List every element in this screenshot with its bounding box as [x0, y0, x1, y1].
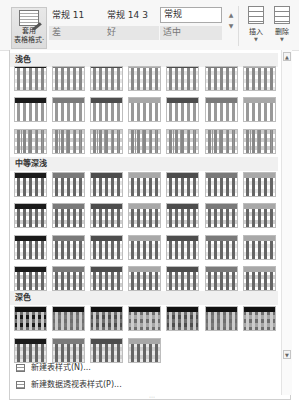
table-style-thumbnail[interactable] — [205, 266, 238, 291]
table-style-thumbnail[interactable] — [52, 66, 85, 91]
table-style-thumbnail[interactable] — [243, 97, 276, 122]
table-style-thumbnail[interactable] — [90, 172, 123, 197]
table-style-thumbnail[interactable] — [243, 203, 276, 228]
new-table-style-icon — [16, 364, 25, 372]
group-header-medium: 中等深浅 — [10, 157, 278, 171]
insert-button[interactable]: 插入 ▼ — [244, 6, 268, 48]
insert-label: 插入 — [244, 26, 268, 36]
table-style-thumbnail[interactable] — [90, 97, 123, 122]
delete-button[interactable]: 删除 ▼ — [270, 6, 294, 48]
table-style-thumbnail[interactable] — [166, 306, 199, 331]
table-style-thumbnail[interactable] — [52, 235, 85, 260]
new-pivot-style-label: 新建数据透视表样式(P)... — [31, 377, 122, 393]
table-style-thumbnail[interactable] — [128, 203, 161, 228]
table-style-thumbnail[interactable] — [166, 172, 199, 197]
delete-dropdown-icon: ▼ — [270, 36, 294, 42]
table-style-thumbnail[interactable] — [243, 129, 276, 154]
table-style-thumbnail[interactable] — [52, 172, 85, 197]
table-style-thumbnail[interactable] — [243, 235, 276, 260]
table-style-thumbnail[interactable] — [243, 306, 276, 331]
group-header-dark: 深色 — [10, 291, 278, 305]
group-header-light: 浅色 — [10, 53, 278, 67]
table-style-thumbnail[interactable] — [128, 66, 161, 91]
ribbon: 套用 表格格式· 常规 11 常规 14 3 常规 差 好 适中 ▲ ▼ 插入 … — [0, 0, 299, 51]
table-style-thumbnail[interactable] — [52, 129, 85, 154]
cell-style-good[interactable]: 好 — [104, 26, 159, 40]
table-style-thumbnail[interactable] — [128, 129, 161, 154]
table-style-thumbnail[interactable] — [166, 129, 199, 154]
table-style-thumbnail[interactable] — [205, 66, 238, 91]
table-style-thumbnail[interactable] — [14, 306, 47, 331]
table-style-thumbnail[interactable] — [14, 97, 47, 122]
table-style-thumbnail[interactable] — [14, 129, 47, 154]
table-style-thumbnail[interactable] — [205, 129, 238, 154]
delete-cells-icon — [274, 6, 290, 24]
cell-style-normal-14-3[interactable]: 常规 14 3 — [104, 9, 159, 23]
table-style-thumbnail[interactable] — [205, 172, 238, 197]
format-as-table-button[interactable]: 套用 表格格式· — [11, 7, 47, 49]
scroll-down-button[interactable]: ▼ — [283, 350, 291, 359]
table-style-thumbnail[interactable] — [128, 306, 161, 331]
new-table-style-label: 新建表样式(N)... — [31, 360, 91, 376]
table-style-thumbnail[interactable] — [52, 97, 85, 122]
table-style-thumbnail[interactable] — [14, 266, 47, 291]
more-styles-icon[interactable]: ▼ — [227, 20, 235, 31]
insert-cells-icon — [248, 6, 264, 24]
new-table-style-menu-item[interactable]: 新建表样式(N)... — [12, 360, 277, 376]
table-style-thumbnail[interactable] — [166, 266, 199, 291]
table-style-thumbnail[interactable] — [14, 203, 47, 228]
table-style-thumbnail[interactable] — [14, 66, 47, 91]
format-table-icon — [19, 10, 39, 26]
table-style-thumbnail[interactable] — [128, 235, 161, 260]
table-style-thumbnail[interactable] — [243, 66, 276, 91]
new-pivot-style-menu-item[interactable]: 新建数据透视表样式(P)... — [12, 377, 277, 393]
gallery-scrollbar[interactable]: ▲ ▼ — [281, 50, 292, 395]
table-style-thumbnail[interactable] — [128, 266, 161, 291]
table-style-thumbnail[interactable] — [90, 203, 123, 228]
cell-styles-scroll[interactable]: ▲ ▼ — [227, 9, 235, 45]
table-style-thumbnail[interactable] — [52, 306, 85, 331]
table-style-thumbnail[interactable] — [243, 266, 276, 291]
cell-style-bad[interactable]: 差 — [49, 26, 104, 40]
table-style-thumbnail[interactable] — [166, 203, 199, 228]
table-style-thumbnail[interactable] — [205, 235, 238, 260]
format-as-table-label-2: 表格格式· — [12, 36, 46, 45]
ribbon-separator — [238, 6, 239, 46]
table-style-thumbnail[interactable] — [128, 97, 161, 122]
table-style-thumbnail[interactable] — [166, 97, 199, 122]
table-style-thumbnail[interactable] — [52, 203, 85, 228]
cell-style-neutral[interactable]: 适中 — [160, 26, 222, 40]
delete-label: 删除 — [270, 26, 294, 36]
table-style-thumbnail[interactable] — [90, 266, 123, 291]
table-style-thumbnail[interactable] — [90, 235, 123, 260]
cell-style-normal[interactable]: 常规 — [160, 7, 222, 23]
table-style-thumbnail[interactable] — [14, 235, 47, 260]
table-style-thumbnail[interactable] — [166, 66, 199, 91]
table-style-thumbnail[interactable] — [166, 235, 199, 260]
table-style-thumbnail[interactable] — [90, 306, 123, 331]
table-style-thumbnail[interactable] — [52, 266, 85, 291]
table-style-thumbnail[interactable] — [205, 306, 238, 331]
table-style-thumbnail[interactable] — [14, 172, 47, 197]
table-style-thumbnail[interactable] — [90, 66, 123, 91]
table-style-thumbnail[interactable] — [205, 97, 238, 122]
insert-dropdown-icon: ▼ — [244, 36, 268, 42]
resize-grip-icon[interactable]: ⋯ — [149, 393, 155, 400]
table-style-thumbnail[interactable] — [205, 203, 238, 228]
scroll-up-button[interactable]: ▲ — [283, 52, 291, 61]
new-pivot-style-icon — [16, 381, 25, 389]
table-style-thumbnail[interactable] — [243, 172, 276, 197]
table-style-thumbnail[interactable] — [90, 129, 123, 154]
cell-style-normal-11[interactable]: 常规 11 — [49, 9, 104, 23]
scroll-up-icon[interactable]: ▲ — [227, 9, 235, 20]
table-style-thumbnail[interactable] — [128, 172, 161, 197]
table-style-gallery: 浅色 中等深浅 深色 新建表样式(N)... 新建数据透视表样式(P)... ⋯… — [9, 50, 291, 400]
format-as-table-label-1: 套用 — [12, 27, 46, 36]
